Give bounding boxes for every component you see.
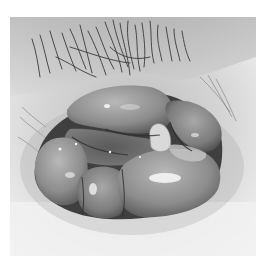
clinical-photograph xyxy=(10,17,256,256)
photo-illustration xyxy=(10,17,256,256)
